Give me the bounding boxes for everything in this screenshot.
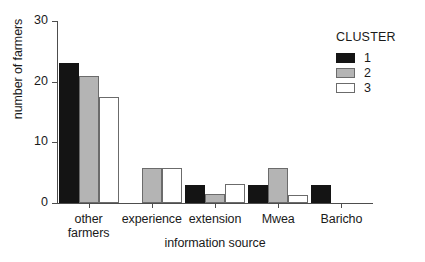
y-axis-label: number of farmers [11, 0, 25, 149]
y-tick-mark [52, 142, 57, 143]
legend-swatch [336, 53, 355, 63]
legend-label: 3 [364, 81, 371, 95]
bar-chart: number of farmers information source 010… [0, 0, 425, 262]
legend-item: 3 [336, 81, 396, 94]
x-tick-mark [89, 203, 90, 208]
x-tick-mark [152, 203, 153, 208]
legend-swatch [336, 68, 355, 78]
bar [248, 185, 268, 203]
legend-label: 1 [364, 51, 371, 65]
legend-item: 2 [336, 66, 396, 79]
bar [288, 195, 308, 203]
x-tick-mark [341, 203, 342, 208]
y-tick-mark [52, 21, 57, 22]
y-tick-label: 10 [34, 134, 48, 148]
bar [142, 168, 162, 203]
plot-area: 0102030 otherfarmersexperienceextensionM… [57, 21, 373, 203]
bar [99, 97, 119, 203]
y-tick: 10 [52, 142, 57, 143]
y-tick: 0 [52, 203, 57, 204]
y-tick-label: 20 [34, 74, 48, 88]
legend-entries: 123 [336, 51, 396, 94]
legend: CLUSTER 123 [336, 30, 396, 96]
bar [205, 194, 225, 203]
x-tick-mark [215, 203, 216, 208]
legend-title: CLUSTER [336, 30, 396, 44]
y-tick: 30 [52, 21, 57, 22]
y-tick-label: 0 [41, 195, 48, 209]
x-tick-label-line: farmers [34, 226, 144, 240]
y-tick-mark [52, 203, 57, 204]
legend-swatch [336, 83, 355, 93]
bar [79, 76, 99, 203]
bar [162, 168, 182, 203]
x-tick-label: Baricho [286, 212, 396, 226]
x-tick-mark [278, 203, 279, 208]
y-tick-mark [52, 82, 57, 83]
legend-label: 2 [364, 66, 371, 80]
bar [225, 184, 245, 203]
y-tick-label: 30 [34, 13, 48, 27]
y-tick: 20 [52, 82, 57, 83]
bar [59, 63, 79, 203]
x-tick-label-line: Baricho [286, 212, 396, 226]
bar [268, 168, 288, 203]
bar [185, 185, 205, 203]
bar [311, 185, 331, 203]
legend-item: 1 [336, 51, 396, 64]
